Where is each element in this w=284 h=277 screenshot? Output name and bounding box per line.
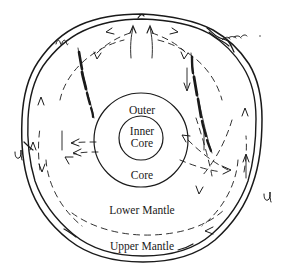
rim-apex-notch [138,15,144,18]
arrowhead-bottom-right [205,227,213,234]
label-outer-core: Outer [0,104,284,116]
flow-arc-top-spread-right [152,33,185,52]
plate-boundary-squiggle-left-icon [15,150,22,160]
flow-line-left-inner-b [74,152,98,154]
stray-ink-dot [259,35,260,36]
arrowhead-left-inner-b [73,149,81,156]
label-inner-core-line1: Inner [0,125,284,137]
arrowhead-top-left-out [106,28,114,34]
label-lower-mantle: Lower Mantle [0,204,284,216]
flow-arc-upper-left [60,40,124,100]
label-upper-mantle: Upper Mantle [0,240,284,252]
upwelling-arrow-right [147,26,153,58]
label-inner-core: Inner Core [0,125,284,150]
rim-kink-lower-left [64,229,76,237]
upwelling-arrow-left-shaft [131,28,133,58]
upwelling-arrow-right-shaft [150,28,152,58]
flow-arc-upper-right [158,40,222,100]
plate-boundary-squiggle-right-icon [264,192,271,202]
arrowhead-left-cmb [65,157,73,164]
subduction-squiggle-top-right-tail [241,35,247,37]
arrowhead-right-down [196,186,203,194]
label-core: Core [0,169,284,181]
upwelling-arrow-left [130,26,136,58]
arrowhead-top-right-out [170,28,178,34]
earth-cross-section-diagram: Outer Inner Core Core Lower Mantle Upper… [0,0,284,277]
label-inner-core-line2: Core [0,137,284,149]
arrowhead-descend-right [181,52,188,59]
slab-left-seg3 [87,93,90,104]
